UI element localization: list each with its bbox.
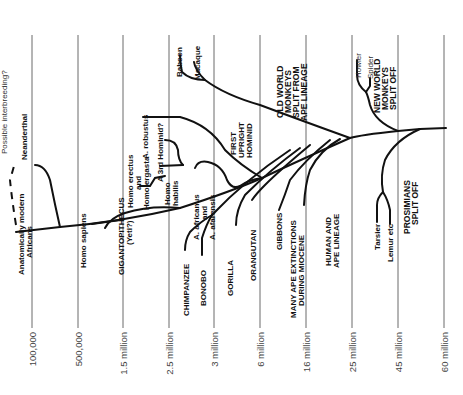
branch-ape-lineage-1 xyxy=(304,139,340,205)
label-neanderthal: Neanderthal xyxy=(20,114,29,160)
label-ape-extinctions-2: DURING MIOCENE xyxy=(297,234,306,306)
branch-spider xyxy=(366,78,370,92)
label-gigantopithecus-2: (Yeti?) xyxy=(125,220,134,245)
branch-neanderthal xyxy=(35,165,60,227)
label-third-hominid: A 3rd Hominid? xyxy=(156,123,165,182)
timeline-tick-label: 3 million xyxy=(209,332,220,367)
branch-old-world xyxy=(194,62,350,138)
label-homo-sapiens: Homo sapiens xyxy=(79,213,88,268)
label-howler: Howler xyxy=(354,53,363,78)
timeline-tick-label: 500,000 xyxy=(73,332,84,366)
label-homo-habilis-2: habilis xyxy=(171,180,180,206)
label-modern-africans-2: Africans xyxy=(25,225,34,258)
branch-orangutan xyxy=(252,145,310,200)
timeline-tick-label: 60 million xyxy=(439,332,450,372)
label-possible-interbreeding: Possible interbreeding? xyxy=(0,70,9,154)
timeline-tick-label: 100,000 xyxy=(27,332,38,366)
label-human-ape-2: APE LINEAGE xyxy=(332,213,341,268)
label-bonobo: BONOBO xyxy=(199,270,208,306)
timeline-tick-label: 6 million xyxy=(255,332,266,367)
label-macaque: Macaque xyxy=(193,45,202,80)
branch-lemur xyxy=(383,192,390,224)
evolution-diagram: 100,000500,0001.5 million2.5 million3 mi… xyxy=(0,0,463,395)
branch-tarsier xyxy=(377,192,383,222)
timeline-tick-label: 1.5 million xyxy=(118,332,129,375)
label-lemur: Lemur etc xyxy=(386,223,395,262)
label-a-robustus: A. robustus xyxy=(141,114,150,159)
timeline-ticks: 100,000500,0001.5 million2.5 million3 mi… xyxy=(27,332,450,375)
label-a-africanus-3: A. afarensis xyxy=(208,194,217,240)
label-baboon: Baboon xyxy=(175,47,184,77)
label-new-world-3: SPLIT OFF xyxy=(388,67,398,110)
timeline-tick-label: 25 million xyxy=(347,332,358,372)
timeline-tick-label: 2.5 million xyxy=(164,332,175,375)
labels: Possible interbreeding? Neanderthal Anat… xyxy=(0,45,420,318)
label-homo-erectus-3: Homo ergasta xyxy=(142,156,151,210)
label-old-world-4: APE LINEAGE xyxy=(299,63,309,121)
label-chimpanzee: CHIMPANZEE xyxy=(182,263,191,316)
branch-homo-sapiens xyxy=(92,220,120,224)
label-tarsier: Tarsier xyxy=(373,224,382,250)
timeline-tick-label: 16 million xyxy=(301,332,312,372)
label-gorilla: GORILLA xyxy=(226,260,235,296)
branch-gorilla xyxy=(236,148,300,225)
label-prosimians-2: SPLIT OFF xyxy=(410,182,420,225)
label-gibbons: GIBBONS xyxy=(275,212,284,250)
label-orangutan: ORANGUTAN xyxy=(249,229,258,281)
label-first-upright-3: HOMINID xyxy=(245,123,254,158)
branch-interbreeding xyxy=(10,166,16,225)
branch-third-hominid xyxy=(165,140,183,165)
timeline-tick-label: 45 million xyxy=(393,332,404,372)
